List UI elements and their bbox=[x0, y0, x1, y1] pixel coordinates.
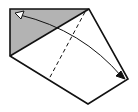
origami-diagram bbox=[0, 0, 138, 112]
